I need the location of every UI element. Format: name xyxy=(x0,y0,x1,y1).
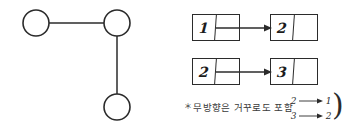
list-node-target[interactable]: 2 xyxy=(270,14,318,41)
list-node-value: 2 xyxy=(192,59,217,84)
list-node-value: 2 xyxy=(270,15,295,40)
arrow-right-icon xyxy=(216,66,272,78)
list-node-target[interactable]: 3 xyxy=(270,58,318,85)
graph-panel xyxy=(0,0,178,132)
footnote-marker: ＊ xyxy=(184,102,192,111)
graph-node-n1[interactable] xyxy=(23,10,49,36)
arrow-head-icon xyxy=(216,22,272,34)
footnote-text: 무방향은 거꾸로도 포함 xyxy=(193,102,293,113)
adjacency-list-panel: 1 2 2 xyxy=(178,0,356,132)
footnote: ＊무방향은 거꾸로도 포함 xyxy=(184,100,293,114)
list-node-value: 1 xyxy=(192,15,217,40)
list-node-pointer xyxy=(294,15,317,40)
arrow-right-icon xyxy=(299,112,323,120)
reverse-edge-row: 3 2 xyxy=(288,109,334,123)
reverse-edge-row: 2 1 xyxy=(288,94,334,108)
reverse-edge-from: 3 xyxy=(288,111,299,121)
closing-brace: ) xyxy=(332,90,344,120)
figure-canvas: 1 2 2 xyxy=(0,0,356,132)
graph-node-n3[interactable] xyxy=(104,94,130,120)
reverse-edge-from: 2 xyxy=(288,96,299,106)
graph-node-n2[interactable] xyxy=(104,10,130,36)
graph-svg xyxy=(0,0,178,132)
reverse-edge-note: 2 1 3 2 ) xyxy=(288,92,356,132)
list-node-pointer xyxy=(294,59,317,84)
list-node-value: 3 xyxy=(270,59,295,84)
arrow-right-icon xyxy=(299,97,323,105)
